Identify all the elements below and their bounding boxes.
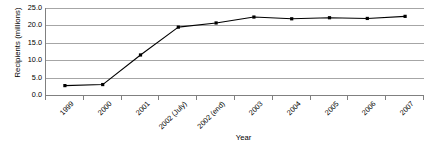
plot-area: 1999: 2.72000: 32001: 11.52002 (July): 1… <box>45 8 424 95</box>
y-axis-tick-label: 10.0 <box>17 57 42 64</box>
x-axis-tick-label: 2005 <box>323 100 340 117</box>
data-point-marker: 2006: 22 <box>366 17 369 20</box>
x-axis-tick-label: 2000 <box>96 100 113 117</box>
y-axis-tick-label: 0.0 <box>17 91 42 98</box>
x-axis-tick <box>310 96 311 100</box>
x-axis-tick <box>347 96 348 100</box>
x-axis-tick-label: 2002 (end) <box>196 100 226 130</box>
data-point-marker: 2002 (end): 20.7 <box>215 21 218 24</box>
x-axis-tick <box>196 96 197 100</box>
x-axis-tick <box>158 96 159 100</box>
x-axis-tick <box>83 96 84 100</box>
x-axis-tick <box>234 96 235 100</box>
data-point-marker: 1999: 2.7 <box>63 84 66 87</box>
y-axis-tick-label: 5.0 <box>17 74 42 81</box>
x-axis-tick <box>423 96 424 100</box>
data-point-marker: 2003: 22.4 <box>252 15 255 18</box>
data-point-marker: 2007: 22.6 <box>404 15 407 18</box>
x-axis-title: Year <box>0 133 435 142</box>
y-axis-tick-label: 20.0 <box>17 22 42 29</box>
x-axis-tick <box>121 96 122 100</box>
x-axis-tick <box>385 96 386 100</box>
data-point-marker: 2001: 11.5 <box>139 53 142 56</box>
x-axis-tick-label: 1999 <box>58 100 75 117</box>
series-polyline <box>65 16 405 85</box>
data-point-marker: 2004: 21.9 <box>290 17 293 20</box>
x-axis-tick-label: 2007 <box>399 100 416 117</box>
x-axis-tick-label: 2006 <box>361 100 378 117</box>
x-axis-tick <box>45 96 46 100</box>
y-axis-tick-label: 25.0 <box>17 4 42 11</box>
y-axis-tick-label: 15.0 <box>17 39 42 46</box>
series-line-recipients: 1999: 2.72000: 32001: 11.52002 (July): 1… <box>46 8 424 95</box>
x-axis-tick-label: 2003 <box>247 100 264 117</box>
x-axis-tick-label: 2001 <box>134 100 151 117</box>
x-axis-tick-labels: 1999200020012002 (July)2002 (end)2003200… <box>45 100 424 134</box>
x-axis-tick-label: 2004 <box>285 100 302 117</box>
y-axis-tick-labels: 0.05.010.015.020.025.0 <box>17 8 42 95</box>
line-chart: Recipients (millions) 0.05.010.015.020.0… <box>0 0 435 149</box>
data-point-marker: 2000: 3 <box>101 83 104 86</box>
data-point-marker: 2005: 22.2 <box>328 16 331 19</box>
data-point-marker: 2002 (July): 19.5 <box>177 26 180 29</box>
x-axis-tick <box>272 96 273 100</box>
x-axis-tick-label: 2002 (July) <box>158 100 189 131</box>
